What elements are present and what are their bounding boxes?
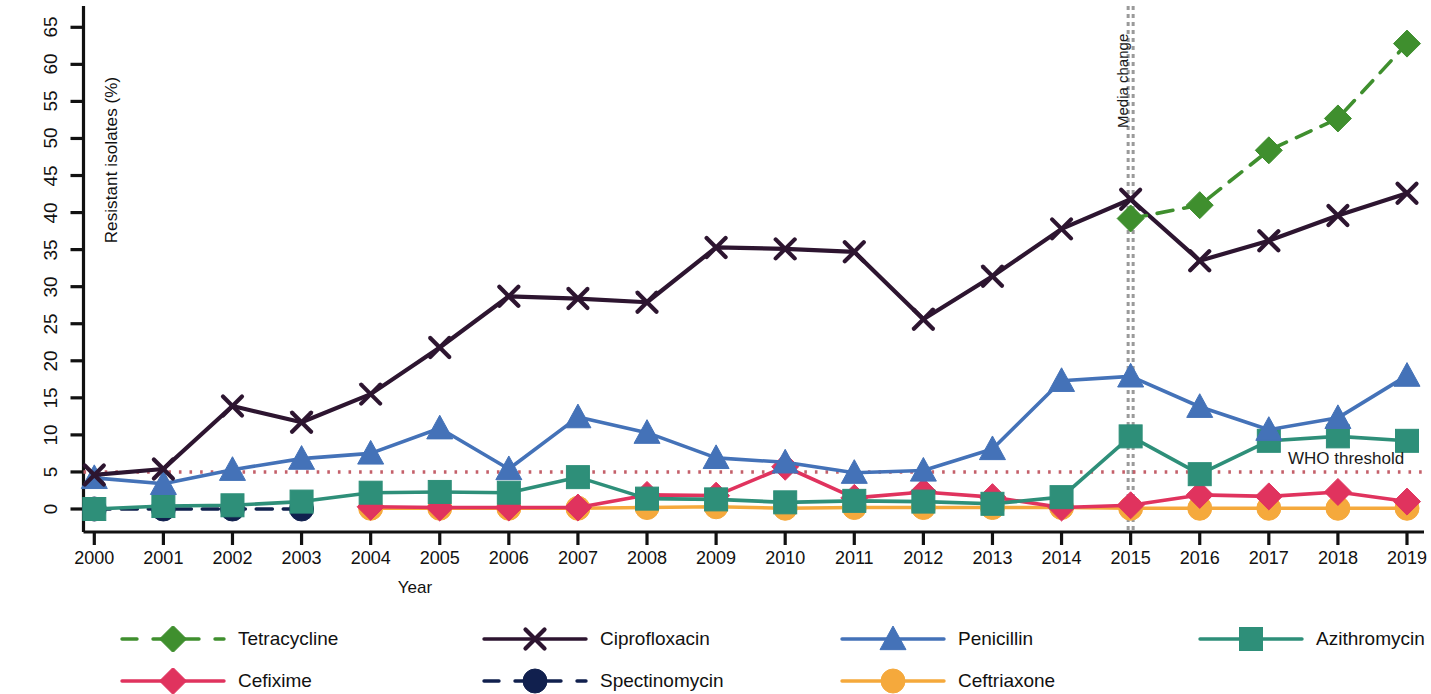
x-axis-label: Year	[0, 578, 830, 598]
y-tick-label: 10	[40, 415, 62, 455]
x-tick-label: 2012	[883, 548, 963, 569]
x-tick-label: 2008	[607, 548, 687, 569]
legend-swatch-triangle-icon	[838, 626, 948, 652]
chart-legend: TetracyclineCiprofloxacinPenicillinAzith…	[0, 612, 1424, 690]
data-point-marker	[428, 480, 451, 503]
x-tick-label: 2011	[814, 548, 894, 569]
annotation-layer	[84, 6, 1425, 532]
data-point-marker	[359, 481, 382, 504]
data-point-marker	[566, 466, 589, 489]
data-point-marker	[705, 488, 728, 511]
y-tick-label: 40	[40, 193, 62, 233]
x-tick-label: 2006	[469, 548, 549, 569]
legend-item-azithromycin[interactable]: Azithromycin	[1196, 626, 1425, 652]
data-point-marker	[636, 487, 659, 510]
y-tick-label: 30	[40, 267, 62, 307]
legend-swatch-diamond-icon	[118, 668, 228, 694]
y-tick-label: 45	[40, 156, 62, 196]
data-point-marker	[983, 267, 1002, 286]
data-point-marker	[160, 626, 187, 652]
data-point-marker	[160, 668, 187, 694]
data-point-marker	[361, 385, 380, 404]
legend-swatch-x-icon	[480, 626, 590, 652]
y-axis-label: Resistant isolates (%)	[102, 40, 122, 280]
data-point-marker	[430, 338, 449, 357]
legend-label: Cefixime	[238, 670, 312, 692]
legend-swatch-circle-icon	[480, 668, 590, 694]
data-point-marker	[290, 490, 313, 513]
legend-label: Spectinomycin	[600, 670, 724, 692]
y-tick-label: 55	[40, 81, 62, 121]
data-point-marker	[221, 494, 244, 517]
y-tick-label: 20	[40, 341, 62, 381]
data-point-marker	[565, 404, 591, 428]
legend-label: Penicillin	[958, 628, 1033, 650]
series-line	[1131, 44, 1407, 219]
x-tick-label: 2017	[1229, 548, 1309, 569]
data-point-marker	[497, 481, 520, 504]
legend-swatch-circle-icon	[838, 668, 948, 694]
x-tick-label: 2019	[1367, 548, 1431, 569]
media-change-annotation-label: Media change	[1114, 34, 1131, 128]
legend-item-ciprofloxacin[interactable]: Ciprofloxacin	[480, 626, 710, 652]
series-layer	[81, 30, 1420, 521]
data-point-marker	[427, 415, 453, 439]
data-point-marker	[358, 440, 384, 464]
y-tick-label: 65	[40, 7, 62, 47]
data-point-marker	[1187, 394, 1213, 418]
y-tick-label: 15	[40, 378, 62, 418]
x-tick-label: 2007	[538, 548, 618, 569]
legend-item-ceftriaxone[interactable]: Ceftriaxone	[838, 668, 1055, 694]
data-point-marker	[1119, 425, 1142, 448]
legend-item-penicillin[interactable]: Penicillin	[838, 626, 1033, 652]
legend-swatch-square-icon	[1196, 626, 1306, 652]
legend-label: Azithromycin	[1316, 628, 1425, 650]
data-point-marker	[912, 490, 935, 513]
x-tick-label: 2000	[54, 548, 134, 569]
data-point-marker	[496, 456, 522, 480]
y-tick-label: 25	[40, 304, 62, 344]
data-point-marker	[152, 495, 175, 518]
legend-swatch-diamond-icon	[118, 626, 228, 652]
data-point-marker	[564, 494, 591, 521]
x-tick-label: 2016	[1160, 548, 1240, 569]
data-point-marker	[914, 310, 933, 329]
y-tick-label: 0	[40, 489, 62, 529]
x-tick-label: 2005	[400, 548, 480, 569]
data-point-marker	[83, 498, 106, 521]
legend-item-tetracycline[interactable]: Tetracycline	[118, 626, 338, 652]
legend-label: Ciprofloxacin	[600, 628, 710, 650]
series-ciprofloxacin	[85, 184, 1417, 485]
data-point-marker	[1325, 405, 1351, 429]
x-tick-label: 2009	[676, 548, 756, 569]
data-point-marker	[981, 492, 1004, 515]
data-point-marker	[523, 669, 547, 693]
data-point-marker	[881, 669, 905, 693]
data-point-marker	[1240, 628, 1263, 651]
data-point-marker	[1052, 219, 1071, 238]
x-tick-label: 2015	[1091, 548, 1171, 569]
data-point-marker	[774, 491, 797, 514]
legend-item-cefixime[interactable]: Cefixime	[118, 668, 312, 694]
x-tick-label: 2010	[745, 548, 825, 569]
x-tick-label: 2018	[1298, 548, 1378, 569]
y-tick-label: 5	[40, 452, 62, 492]
x-tick-label: 2002	[192, 548, 272, 569]
legend-label: Tetracycline	[238, 628, 338, 650]
data-point-marker	[1188, 463, 1211, 486]
series-penicillin	[81, 363, 1420, 495]
y-tick-label: 50	[40, 118, 62, 158]
legend-item-spectinomycin[interactable]: Spectinomycin	[480, 668, 724, 694]
legend-label: Ceftriaxone	[958, 670, 1055, 692]
x-tick-label: 2004	[331, 548, 411, 569]
who-threshold-annotation-label: WHO threshold	[1288, 449, 1404, 469]
x-tick-label: 2014	[1022, 548, 1102, 569]
data-point-marker	[1394, 363, 1420, 387]
x-tick-label: 2001	[123, 548, 203, 569]
x-tick-label: 2013	[952, 548, 1032, 569]
x-tick-label: 2003	[262, 548, 342, 569]
y-tick-label: 60	[40, 44, 62, 84]
data-point-marker	[1050, 486, 1073, 509]
y-tick-label: 35	[40, 230, 62, 270]
